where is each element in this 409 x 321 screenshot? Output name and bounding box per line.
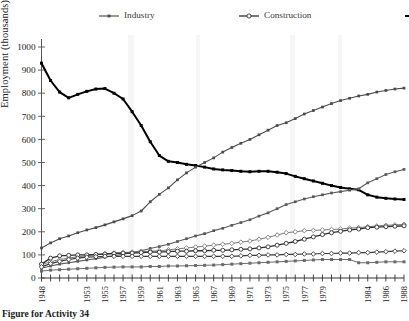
legend-label: Construction — [264, 11, 311, 20]
legend-item-construction: Construction — [238, 11, 404, 20]
series-industry — [40, 87, 405, 250]
legend-label: Industry — [124, 11, 155, 20]
svg-text:1984: 1984 — [364, 285, 373, 303]
svg-text:900: 900 — [22, 65, 36, 75]
svg-text:200: 200 — [22, 227, 36, 237]
svg-text:1967: 1967 — [210, 286, 219, 303]
figure-activity-34: Industry Construction Agriculture and fo… — [0, 0, 409, 321]
svg-text:1971: 1971 — [246, 286, 255, 303]
svg-text:1979: 1979 — [319, 286, 328, 303]
legend-marker-icon-industry — [98, 11, 120, 20]
svg-text:1965: 1965 — [192, 286, 201, 303]
figure-caption: Figure for Activity 34 — [2, 309, 89, 319]
svg-text:1975: 1975 — [282, 286, 291, 303]
svg-text:1973: 1973 — [264, 286, 273, 303]
svg-text:1959: 1959 — [137, 286, 146, 303]
svg-text:600: 600 — [22, 135, 36, 145]
y-axis-label: Employment (thousands) — [0, 0, 10, 108]
svg-text:1988: 1988 — [400, 286, 409, 303]
svg-text:1953: 1953 — [83, 286, 92, 303]
svg-text:0: 0 — [31, 273, 36, 283]
series-agriculture-and-forestry — [40, 62, 406, 201]
svg-text:1963: 1963 — [174, 286, 183, 303]
legend-marker-icon-agriculture — [404, 11, 409, 20]
svg-text:1957: 1957 — [119, 286, 128, 303]
svg-text:1977: 1977 — [301, 286, 310, 303]
svg-text:800: 800 — [22, 88, 36, 98]
svg-text:400: 400 — [22, 181, 36, 191]
legend-item-industry: Industry — [98, 11, 238, 20]
svg-text:1986: 1986 — [382, 286, 391, 303]
svg-text:100: 100 — [22, 250, 36, 260]
svg-text:1969: 1969 — [228, 286, 237, 303]
svg-text:500: 500 — [22, 158, 36, 168]
svg-text:1000: 1000 — [17, 42, 36, 52]
svg-text:1955: 1955 — [101, 286, 110, 303]
legend-item-agriculture-and-forestry: Agriculture and forestry — [404, 11, 409, 20]
legend-marker-icon-construction — [238, 11, 260, 20]
svg-text:1948: 1948 — [38, 286, 47, 303]
svg-text:1961: 1961 — [156, 286, 165, 303]
svg-text:300: 300 — [22, 204, 36, 214]
chart-legend: Industry Construction Agriculture and fo… — [98, 8, 404, 70]
series-banking-finance-other — [40, 258, 406, 273]
svg-text:700: 700 — [22, 112, 36, 122]
